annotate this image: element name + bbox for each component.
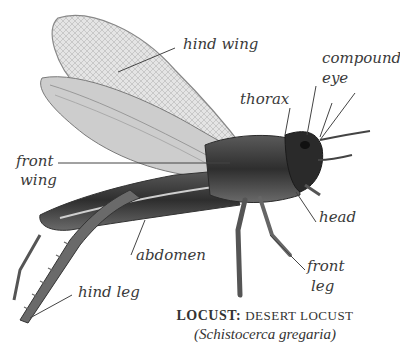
- label-hind-wing: hind wing: [183, 36, 258, 53]
- caption: LOCUST: DESERT LOCUST (Schistocerca greg…: [130, 308, 400, 343]
- label-head: head: [319, 209, 356, 226]
- label-hind-leg: hind leg: [78, 284, 140, 301]
- label-front-leg-line1: front: [307, 258, 344, 275]
- label-front-leg-line2: leg: [311, 278, 334, 295]
- label-compound-eye-line2: eye: [322, 70, 348, 87]
- label-compound-eye-line1: compound: [322, 50, 400, 67]
- label-thorax: thorax: [240, 91, 289, 108]
- label-front-wing-line2: wing: [20, 172, 57, 189]
- caption-scientific-name: (Schistocerca gregaria): [130, 326, 400, 343]
- locust-diagram: hind wing compound eye thorax front wing…: [0, 0, 400, 354]
- label-front-wing-line1: front: [16, 153, 53, 170]
- caption-title: LOCUST: DESERT LOCUST: [130, 308, 400, 324]
- caption-title-bold: LOCUST:: [176, 308, 241, 323]
- caption-title-rest: DESERT LOCUST: [245, 308, 353, 323]
- label-abdomen: abdomen: [136, 247, 206, 264]
